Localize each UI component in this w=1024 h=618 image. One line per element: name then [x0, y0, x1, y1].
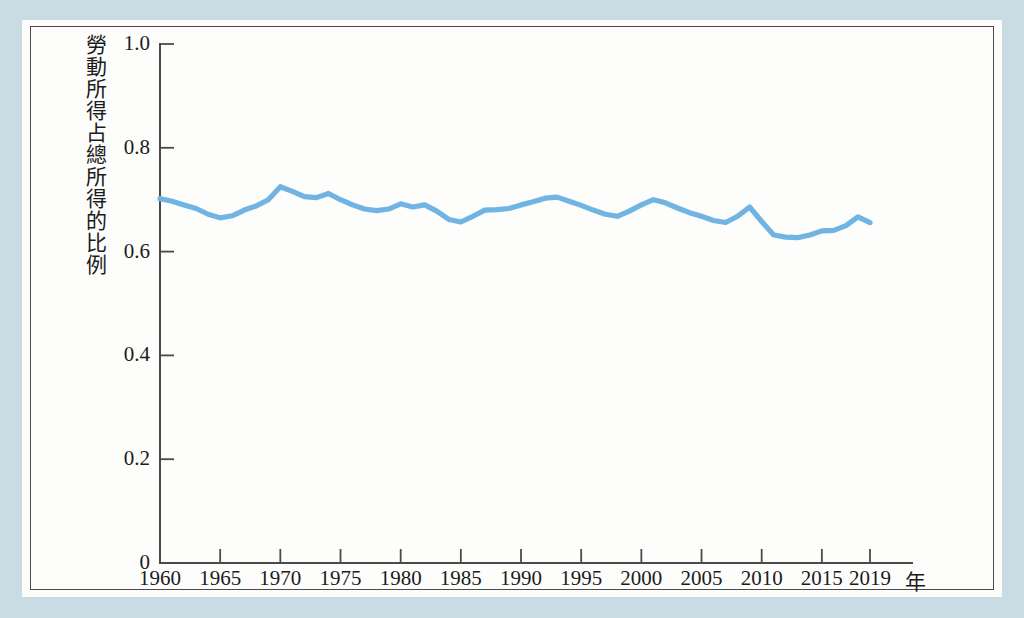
chart-axes	[160, 44, 912, 563]
chart-series-group	[160, 187, 870, 238]
data-line-labor-income-share	[160, 187, 870, 238]
figure-page: 勞動所得占總所得的比例 年 00.20.40.60.81.01960196519…	[0, 0, 1024, 618]
chart-plot-area	[0, 0, 1024, 618]
y-axis-ticks	[160, 44, 174, 563]
x-axis-ticks	[220, 549, 870, 563]
